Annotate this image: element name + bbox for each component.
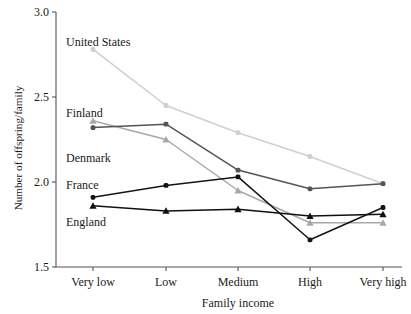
line-chart: 1.52.02.53.0 Very lowLowMediumHighVery h… — [0, 0, 411, 314]
axes — [56, 12, 402, 267]
x-axis-title: Family income — [202, 296, 274, 310]
series-united-states — [91, 47, 386, 186]
y-axis-title: Number of offspring/family — [12, 85, 24, 210]
data-point-marker — [381, 205, 386, 210]
data-point-marker — [308, 237, 313, 242]
series-annotation-label: United States — [66, 35, 131, 49]
series-annotation-label: England — [66, 215, 106, 229]
data-point-marker — [164, 103, 169, 108]
y-axis-ticks: 1.52.02.53.0 — [34, 5, 56, 274]
x-axis-ticks: Very lowLowMediumHighVery high — [71, 267, 406, 289]
x-tick-label: Very low — [71, 275, 115, 289]
y-tick-label: 2.5 — [34, 90, 49, 104]
series-layer — [89, 47, 386, 242]
data-point-marker — [164, 122, 169, 127]
data-point-marker — [91, 195, 96, 200]
data-point-marker — [308, 186, 313, 191]
chart-container: 1.52.02.53.0 Very lowLowMediumHighVery h… — [0, 0, 411, 314]
data-point-marker — [236, 168, 241, 173]
series-annotation-label: France — [66, 178, 99, 192]
data-point-marker — [308, 154, 313, 159]
y-tick-label: 1.5 — [34, 260, 49, 274]
data-point-marker — [236, 175, 241, 180]
series-england — [89, 202, 386, 219]
x-tick-label: Very high — [360, 275, 407, 289]
data-point-marker — [164, 183, 169, 188]
x-tick-label: Medium — [218, 275, 259, 289]
x-tick-label: Low — [155, 275, 177, 289]
x-tick-label: High — [298, 275, 322, 289]
series-labels-layer: United StatesFinlandDenmarkFranceEngland — [66, 35, 131, 229]
y-tick-label: 2.0 — [34, 175, 49, 189]
data-point-marker — [91, 125, 96, 130]
data-point-marker — [381, 181, 386, 186]
series-annotation-label: Finland — [66, 106, 103, 120]
y-tick-label: 3.0 — [34, 5, 49, 19]
series-line — [93, 49, 383, 183]
data-point-marker — [236, 130, 241, 135]
series-annotation-label: Denmark — [66, 151, 111, 165]
